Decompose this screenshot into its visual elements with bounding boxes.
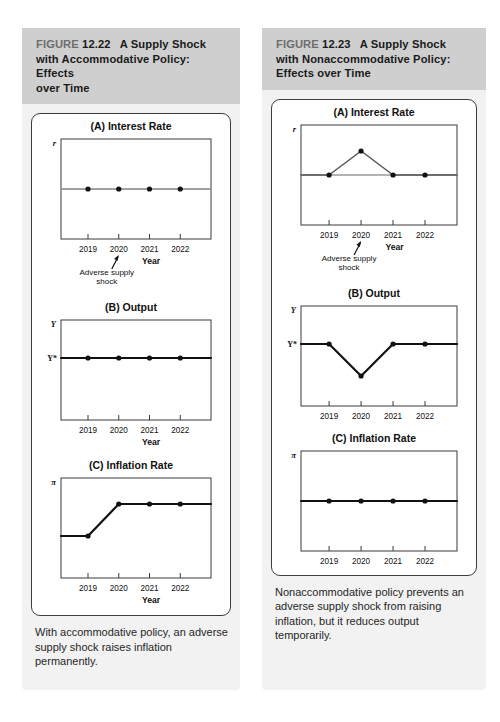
figure-title-part-1: A Supply Shock — [354, 38, 446, 50]
figure-caption-12-23: Nonaccommodative policy prevents an adve… — [262, 576, 486, 651]
svg-text:Y: Y — [291, 305, 297, 315]
svg-text:2021: 2021 — [140, 584, 159, 593]
chart-a-interest-rate: (A) Interest Rater2019202020212022YearAd… — [36, 120, 226, 293]
figure-panel-12-22: FIGURE 12.22 A Supply Shock with Accommo… — [22, 28, 240, 690]
chart-c-inflation-rate: (C) Inflation Rateπ2019202020212022Year — [36, 459, 226, 609]
svg-text:Y*: Y* — [287, 340, 297, 349]
svg-text:Year: Year — [142, 256, 161, 266]
figure-header-12-22: FIGURE 12.22 A Supply Shock with Accommo… — [22, 28, 240, 104]
svg-text:r: r — [293, 124, 297, 134]
svg-text:2021: 2021 — [384, 231, 403, 240]
chart-title: (A) Interest Rate — [36, 120, 226, 132]
svg-text:π: π — [291, 450, 296, 460]
chart-b-output: (B) OutputYY*2019202020212022 — [276, 287, 472, 424]
figure-header-line-1: FIGURE 12.22 A Supply Shock — [36, 37, 228, 52]
chart-title: (B) Output — [276, 287, 472, 299]
svg-text:Y: Y — [51, 319, 57, 329]
plot-area: YY*2019202020212022Year — [39, 316, 223, 451]
figure-word: FIGURE — [276, 38, 319, 50]
figure-header-12-23: FIGURE 12.23 A Supply Shock with Nonacco… — [262, 28, 486, 90]
svg-text:2022: 2022 — [171, 245, 190, 254]
figure-word: FIGURE — [36, 38, 79, 50]
svg-text:shock: shock — [96, 277, 118, 286]
svg-text:2022: 2022 — [416, 412, 435, 421]
figure-header-line-3: Effects over Time — [276, 66, 474, 81]
svg-text:2022: 2022 — [171, 426, 190, 435]
figure-header-line-1: FIGURE 12.23 A Supply Shock — [276, 37, 474, 52]
svg-text:Year: Year — [142, 437, 161, 447]
figure-panel-12-23: FIGURE 12.23 A Supply Shock with Nonacco… — [262, 28, 486, 690]
svg-text:2019: 2019 — [79, 245, 98, 254]
svg-text:2019: 2019 — [320, 231, 339, 240]
chart-title: (C) Inflation Rate — [276, 432, 472, 444]
svg-text:2022: 2022 — [171, 584, 190, 593]
svg-text:2020: 2020 — [352, 231, 371, 240]
svg-text:2021: 2021 — [140, 245, 159, 254]
chart-c-inflation-rate: (C) Inflation Rateπ2019202020212022 — [276, 432, 472, 569]
svg-text:2020: 2020 — [110, 584, 129, 593]
svg-text:2021: 2021 — [384, 557, 403, 566]
chart-title: (A) Interest Rate — [276, 106, 472, 118]
figure-caption-12-22: With accommodative policy, an adverse su… — [22, 616, 240, 677]
chart-b-output: (B) OutputYY*2019202020212022Year — [36, 301, 226, 451]
chart-title: (C) Inflation Rate — [36, 459, 226, 471]
svg-text:2020: 2020 — [110, 426, 129, 435]
plot-area: r2019202020212022YearAdverse supplyshock — [39, 135, 223, 293]
figure-header-line-2: with Nonaccommodative Policy: — [276, 52, 474, 67]
svg-text:2022: 2022 — [416, 231, 435, 240]
svg-text:2019: 2019 — [79, 584, 98, 593]
figure-card-12-23: (A) Interest Rater2019202020212022YearAd… — [271, 99, 477, 576]
svg-text:2021: 2021 — [384, 412, 403, 421]
svg-text:2020: 2020 — [352, 412, 371, 421]
svg-text:Year: Year — [142, 595, 161, 605]
figure-number: 12.22 — [82, 38, 111, 50]
svg-text:Y*: Y* — [47, 354, 57, 363]
svg-text:r: r — [53, 138, 57, 148]
svg-text:2020: 2020 — [352, 557, 371, 566]
figure-number: 12.23 — [322, 38, 351, 50]
plot-area: π2019202020212022Year — [39, 474, 223, 609]
chart-title: (B) Output — [36, 301, 226, 313]
figure-header-line-2: with Accommodative Policy: Effects — [36, 52, 228, 81]
svg-text:Year: Year — [386, 242, 405, 252]
plot-area: YY*2019202020212022 — [279, 302, 469, 424]
figure-title-part-1: A Supply Shock — [114, 38, 206, 50]
svg-text:2021: 2021 — [140, 426, 159, 435]
svg-text:2020: 2020 — [110, 245, 129, 254]
svg-text:shock: shock — [339, 262, 361, 271]
svg-text:2019: 2019 — [79, 426, 98, 435]
plot-area: π2019202020212022 — [279, 447, 469, 569]
svg-text:2022: 2022 — [416, 557, 435, 566]
figure-header-line-3: over Time — [36, 81, 228, 96]
figure-card-12-22: (A) Interest Rater2019202020212022YearAd… — [31, 113, 231, 616]
plot-area: r2019202020212022YearAdverse supplyshock — [279, 121, 469, 279]
svg-text:2019: 2019 — [320, 412, 339, 421]
svg-text:2019: 2019 — [320, 557, 339, 566]
svg-text:π: π — [51, 477, 56, 487]
chart-a-interest-rate: (A) Interest Rater2019202020212022YearAd… — [276, 106, 472, 279]
